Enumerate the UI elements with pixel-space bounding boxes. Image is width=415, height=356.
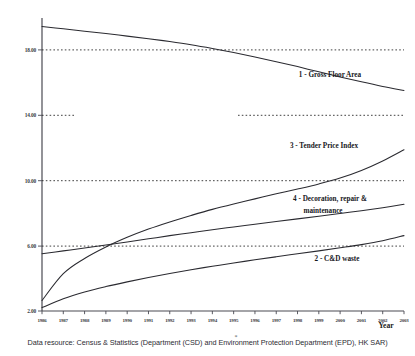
data-source-footnote: Data resource: Census & Statistics (Depa… [0,338,415,347]
y-tick-label-14: 14.00 [25,112,37,118]
x-tick-label-1990: 1990 [123,318,133,323]
series-line-gross_floor_area [42,26,404,90]
chart-figure: 18.00 14.00 10.00 6.00 2.00 198619871988… [0,0,415,356]
series-label-cd-waste: 2 - C&D waste [315,255,360,263]
series-label-tender-price-index: 3 - Tender Price Index [290,142,359,150]
x-tick-label-1991: 1991 [144,318,154,323]
x-tick-labels: 1986198719881989199019911992199319941995… [37,318,409,323]
series-label-decoration-line1: 4 - Decoration, repair & [293,195,367,203]
series-line-tender_price_index [42,150,404,301]
y-tick-label-6: 6.00 [27,243,36,249]
x-axis-title: Year [378,321,394,330]
y-tick-label-2: 2.00 [27,308,36,314]
x-tick-label-1988: 1988 [80,318,90,323]
x-tick-label-1999: 1999 [314,318,324,323]
x-tick-label-1993: 1993 [186,318,196,323]
x-tick-label-2000: 2000 [336,318,346,323]
x-tick-label-1997: 1997 [272,318,282,323]
x-tick-label-1995: 1995 [229,318,239,323]
x-tick-label-1992: 1992 [165,318,175,323]
x-tick-label-1996: 1996 [250,318,260,323]
line-chart-canvas: 18.00 14.00 10.00 6.00 2.00 198619871988… [0,0,415,356]
series-label-gross-floor-area: 1 - Gross Floor Area [299,71,362,79]
series-lines [42,26,404,307]
x-tick-label-1989: 1989 [101,318,111,323]
x-tick-label-1986: 1986 [37,318,47,323]
series-label-decoration-line2: maintenance [303,207,342,215]
x-tick-label-1998: 1998 [293,318,303,323]
x-tick-label-2001: 2001 [357,318,367,323]
y-tick-label-10: 10.00 [25,178,37,184]
x-tick-label-1987: 1987 [59,318,69,323]
y-tick-label-18: 18.00 [25,47,37,53]
x-tick-label-2003: 2003 [399,318,409,323]
x-tick-label-1994: 1994 [208,318,218,323]
y-tick-labels: 18.00 14.00 10.00 6.00 2.00 [25,47,37,314]
